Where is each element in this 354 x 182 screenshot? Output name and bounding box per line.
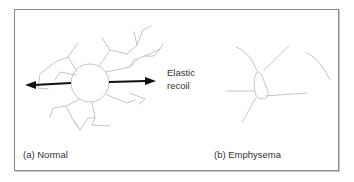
collapsed-airspace — [254, 72, 268, 99]
alveolus-circle — [71, 64, 109, 102]
emphysema-tissue-network — [226, 46, 330, 122]
caption-normal: (a) Normal — [23, 149, 68, 160]
elastic-recoil-line1: Elastic — [167, 66, 195, 79]
left-arrowhead — [25, 81, 36, 89]
right-arrowhead — [145, 77, 156, 85]
normal-tissue-network — [38, 26, 163, 130]
elastic-recoil-label: Elastic recoil — [167, 66, 195, 92]
caption-emphysema: (b) Emphysema — [214, 149, 281, 160]
elastic-recoil-arrows — [25, 77, 156, 89]
elastic-recoil-line2: recoil — [167, 79, 195, 92]
